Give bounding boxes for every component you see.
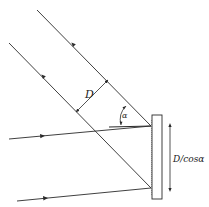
arrow-icon [120,122,123,126]
reflected-beam-1 [37,10,151,126]
reflected-beam-2 [9,43,151,188]
beam-width-label: D [84,88,94,101]
arrow-icon [43,196,48,200]
angle-label: α [122,111,128,120]
incoming-beam-2 [17,188,151,201]
mirror [152,115,163,199]
arrow-icon [123,106,127,109]
mirror-reflection-diagram: D α D/cosα [0,0,209,207]
incoming-beam-1 [9,126,151,139]
mirror-length-label: D/cosα [172,154,204,164]
arrow-icon [71,43,75,47]
arrow-icon [40,134,45,138]
